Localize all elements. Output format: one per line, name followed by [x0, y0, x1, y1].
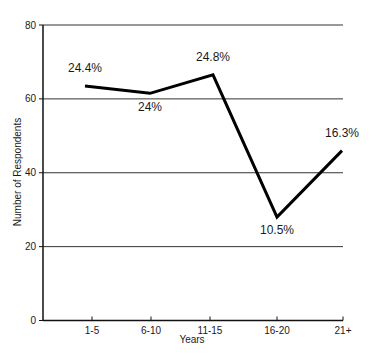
y-tick-label: 40	[25, 167, 37, 178]
x-tick-label: 1-5	[85, 325, 100, 336]
y-tick-label: 0	[30, 315, 36, 326]
y-tick-labels: 020406080	[25, 20, 37, 327]
line-chart: 020406080 1-56-1011-1516-2021+ 24.4%24%2…	[0, 0, 371, 361]
y-tick-label: 80	[25, 20, 37, 31]
y-axis-label: Number of Respondents	[12, 118, 23, 226]
data-label: 24.8%	[196, 50, 230, 64]
y-tick-label: 60	[25, 93, 37, 104]
x-tick-label: 6-10	[141, 325, 161, 336]
x-tick-label: 16-20	[264, 325, 290, 336]
data-line	[85, 75, 342, 217]
data-label: 10.5%	[260, 223, 294, 237]
x-tick-label: 21+	[335, 325, 352, 336]
x-tick-labels: 1-56-1011-1516-2021+	[85, 317, 352, 336]
data-label: 24%	[138, 100, 162, 114]
x-axis-label: Years	[179, 334, 204, 345]
y-tick-label: 20	[25, 241, 37, 252]
data-label: 16.3%	[325, 126, 359, 140]
data-label: 24.4%	[68, 61, 102, 75]
